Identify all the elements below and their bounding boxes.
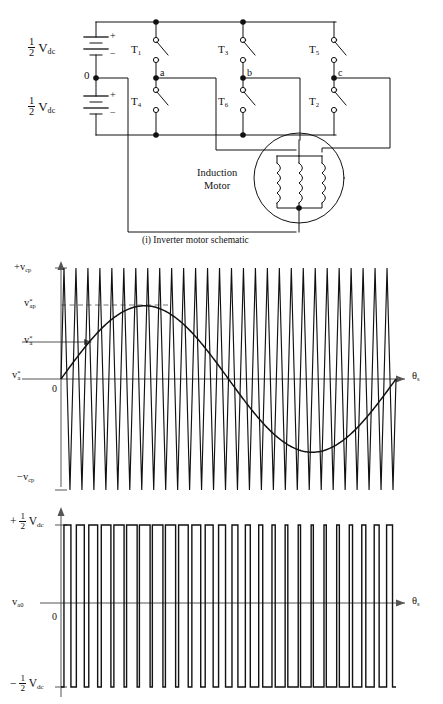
supply-label-upper: 12 Vdc: [28, 37, 55, 59]
chart1-ylabel-va-level: v*a: [24, 335, 32, 346]
node-label-b: b: [247, 68, 252, 78]
inverter-schematic-drawing: [0, 0, 443, 255]
chart2-ylabel-pos: + 12 Vdc: [10, 512, 44, 531]
chart1-xaxis-label: θs: [412, 371, 420, 382]
battery-minus-upper: −: [110, 49, 116, 59]
chart-pwm-modulation: [0, 255, 443, 495]
chart2-x-arrowhead: [396, 600, 405, 607]
chart-pole-voltage: [0, 497, 443, 702]
switch-label-T3: T3: [218, 44, 228, 57]
node-label-c: c: [338, 68, 342, 78]
phase-c-output-wire: [322, 78, 390, 152]
chart1-origin-label: 0: [52, 384, 57, 394]
pole-voltage-waveform: [61, 525, 396, 687]
chart1-ylabel-vcp-neg: −vcp: [17, 472, 34, 483]
switch-label-T6: T6: [218, 96, 228, 109]
frac-num-lower: 1: [28, 96, 35, 106]
chart2-ylabel-neg: − 12 Vdc: [10, 674, 44, 693]
motor-label-line2: Motor: [197, 181, 237, 192]
chart1-x-arrowhead: [396, 376, 405, 383]
phase-b-output-wire: [243, 78, 300, 140]
battery-minus-lower: −: [110, 108, 116, 118]
switch-label-T2: T2: [309, 96, 319, 109]
battery-plus-lower: +: [110, 90, 116, 100]
switch-label-T5: T5: [309, 44, 319, 57]
supply-lower-v: V: [38, 99, 47, 114]
motor-label: Induction Motor: [197, 168, 237, 191]
frac-den-upper: 2: [28, 47, 35, 58]
figure-inverter-pwm: 12 Vdc 12 Vdc 0 + − + − T1 T3 T5 T4 T6 T…: [0, 0, 443, 704]
supply-upper-v: V: [38, 40, 47, 55]
chart2-y-arrowhead: [58, 507, 65, 516]
battery-plus-upper: +: [110, 31, 116, 41]
chart1-ylabel-vap: v*ap: [24, 298, 36, 309]
chart2-origin-label: 0: [52, 612, 57, 622]
chart2-ylabel-va0: va0: [12, 597, 23, 608]
top-crop-strip: [0, 0, 443, 12]
supply-label-lower: 12 Vdc: [28, 96, 55, 118]
midpoint-label: 0: [84, 70, 90, 81]
figure-caption: (i) Inverter motor schematic: [142, 235, 249, 245]
switch-label-T4: T4: [131, 96, 141, 109]
chart2-xaxis-label: θs: [412, 596, 420, 607]
supply-lower-sub: dc: [48, 106, 56, 115]
phase-a-output-wire: [156, 78, 296, 150]
switch-label-T1: T1: [131, 44, 141, 57]
supply-upper-sub: dc: [48, 47, 56, 56]
node-label-a: a: [160, 68, 164, 78]
chart1-ylabel-vcp-pos: +vcp: [14, 262, 31, 273]
frac-num-upper: 1: [28, 37, 35, 47]
motor-label-line1: Induction: [197, 168, 237, 179]
frac-den-lower: 2: [28, 106, 35, 117]
chart1-ylabel-va-zero: v*a: [12, 370, 20, 381]
